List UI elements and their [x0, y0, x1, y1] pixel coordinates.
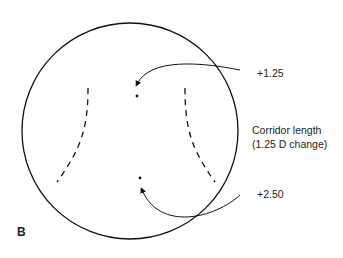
- far-point-dot: [136, 95, 139, 98]
- right-corridor-boundary: [185, 88, 215, 182]
- panel-label: B: [17, 226, 26, 239]
- corridor-label-line2: (1.25 D change): [252, 138, 327, 151]
- lens-outline: [22, 23, 238, 239]
- corridor-label-line1: Corridor length: [252, 124, 321, 137]
- left-corridor-boundary: [57, 88, 88, 182]
- top-arrow: [137, 64, 240, 84]
- near-point-dot: [139, 177, 142, 180]
- bottom-arrow: [142, 190, 240, 217]
- bottom-power-label: +2.50: [257, 188, 284, 201]
- top-power-label: +1.25: [257, 67, 284, 80]
